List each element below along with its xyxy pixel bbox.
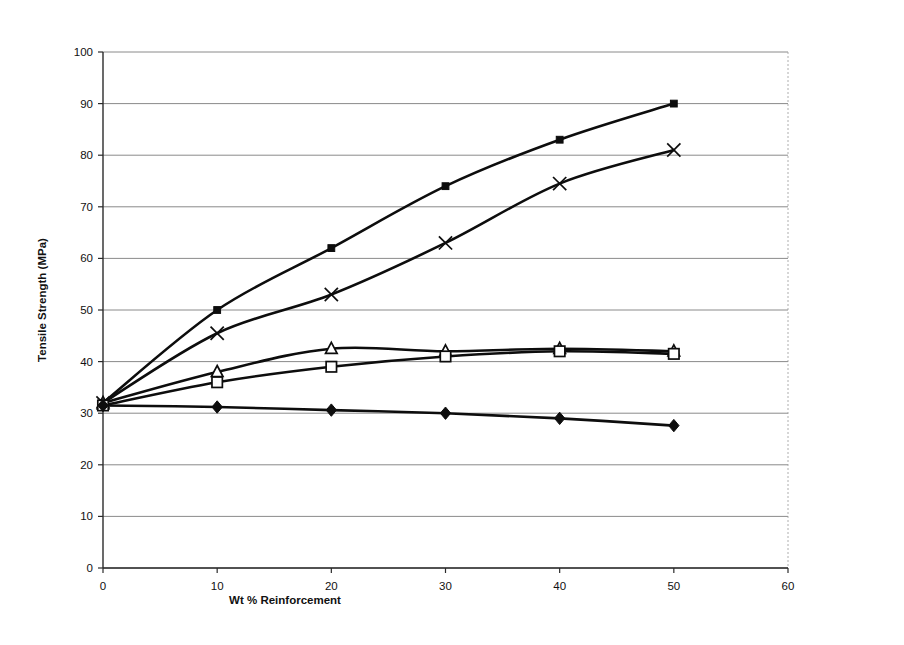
series-open-square-marker [554, 346, 564, 356]
series-filled-square-marker [328, 245, 335, 252]
y-axis-title: Tensile Strength (MPa) [36, 238, 48, 362]
series-filled-diamond-marker [669, 419, 679, 431]
series-filled-square-marker [214, 307, 221, 314]
x-tick-label: 60 [782, 580, 795, 592]
series-filled-diamond-marker [326, 404, 336, 416]
y-tick-label: 40 [80, 356, 93, 368]
series-open-square-marker [440, 351, 450, 361]
tick-marks-group [98, 52, 788, 573]
y-tick-label: 100 [74, 46, 93, 58]
series-filled-diamond-line [103, 405, 674, 425]
series-filled-square-marker [442, 183, 449, 190]
y-tick-label: 70 [80, 201, 93, 213]
series-cross-marker [553, 177, 566, 190]
x-tick-label: 30 [439, 580, 452, 592]
series-group [103, 104, 674, 426]
series-open-square-marker [326, 362, 336, 372]
series-filled-diamond-marker [554, 412, 564, 424]
x-tick-label: 10 [211, 580, 224, 592]
series-cross-marker [211, 327, 224, 340]
y-tick-label: 60 [80, 252, 93, 264]
series-open-square-marker [212, 377, 222, 387]
y-tick-label: 90 [80, 98, 93, 110]
y-tick-label: 80 [80, 149, 93, 161]
y-tick-label: 20 [80, 459, 93, 471]
x-axis-title: Wt % Reinforcement [229, 594, 341, 606]
y-tick-label: 10 [80, 510, 93, 522]
series-open-square-marker [669, 349, 679, 359]
series-cross-marker [439, 236, 452, 249]
markers-group [96, 100, 680, 432]
gridlines-group [103, 52, 788, 568]
series-cross-line [103, 150, 674, 403]
series-filled-square-marker [670, 100, 677, 107]
x-tick-label: 50 [667, 580, 680, 592]
y-tick-labels-group: 0102030405060708090100 [74, 46, 93, 574]
x-tick-label: 40 [553, 580, 566, 592]
series-cross-marker [325, 288, 338, 301]
series-open-triangle-line [103, 348, 674, 403]
series-filled-diamond-marker [440, 407, 450, 419]
chart-container: 0102030405060708090100 0102030405060 Ten… [0, 0, 904, 645]
y-tick-label: 0 [87, 562, 93, 574]
series-filled-diamond-marker [212, 401, 222, 413]
tensile-strength-line-chart: 0102030405060708090100 0102030405060 Ten… [0, 0, 904, 645]
y-tick-label: 30 [80, 407, 93, 419]
series-filled-square-marker [556, 136, 563, 143]
x-tick-label: 0 [100, 580, 106, 592]
x-tick-label: 20 [325, 580, 338, 592]
y-tick-label: 50 [80, 304, 93, 316]
series-filled-square-line [103, 104, 674, 403]
x-tick-labels-group: 0102030405060 [100, 580, 795, 592]
